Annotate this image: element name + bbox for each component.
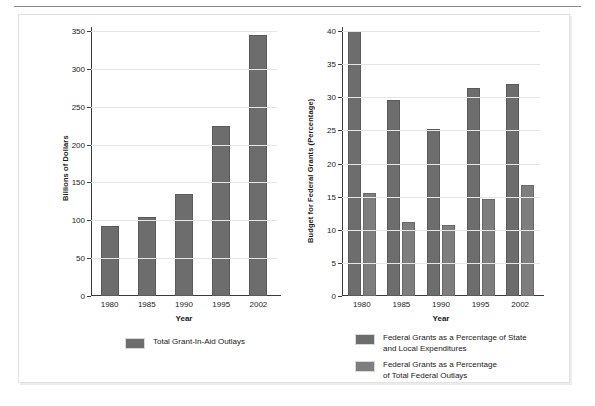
bar xyxy=(442,225,455,296)
x-tick-label: 1995 xyxy=(203,300,240,309)
legend-swatch-icon xyxy=(355,334,375,345)
y-tick-label: 300 xyxy=(72,64,85,73)
y-axis-tick xyxy=(87,69,91,70)
y-axis-tick xyxy=(338,97,342,98)
x-tick-label: 1985 xyxy=(382,300,422,309)
gridline xyxy=(91,182,277,183)
gridline xyxy=(91,220,277,221)
y-tick-label: 35 xyxy=(327,60,336,69)
gridline xyxy=(91,107,277,108)
y-axis-tick xyxy=(87,31,91,32)
y-tick-label: 350 xyxy=(72,27,85,36)
legend-swatch-icon xyxy=(125,338,145,349)
legend-label-line1: Federal Grants as a Percentage xyxy=(383,360,497,369)
y-tick-label: 0 xyxy=(332,292,336,301)
gridline xyxy=(342,230,540,231)
y-tick-label: 30 xyxy=(327,93,336,102)
y-tick-label: 150 xyxy=(72,178,85,187)
gridline xyxy=(91,31,277,32)
y-tick-label: 250 xyxy=(72,102,85,111)
x-tick-label: 1990 xyxy=(165,300,202,309)
gridline xyxy=(342,164,540,165)
legend-label-line1: Federal Grants as a Percentage of State xyxy=(383,333,527,342)
plot-area-left: 050100150200250300350 xyxy=(91,31,277,296)
gridline xyxy=(91,145,277,146)
gridline xyxy=(342,97,540,98)
bar xyxy=(427,129,440,296)
y-axis-tick xyxy=(338,64,342,65)
y-axis-tick xyxy=(338,296,342,297)
y-tick-label: 20 xyxy=(327,159,336,168)
gridline xyxy=(342,130,540,131)
x-tick-label: 2002 xyxy=(240,300,277,309)
bar xyxy=(482,199,495,296)
bar xyxy=(363,193,376,296)
x-tick-label: 1995 xyxy=(461,300,501,309)
y-axis-tick xyxy=(87,107,91,108)
legend-item: Total Grant-In-Aid Outlays xyxy=(125,337,245,349)
x-tick-labels-left: 19801985199019952002 xyxy=(91,300,277,309)
bar xyxy=(175,194,193,296)
gridline xyxy=(342,197,540,198)
plot-area-right: 0510152025303540 xyxy=(342,31,540,296)
y-tick-label: 50 xyxy=(76,254,85,263)
figure-page: Billions of Dollars 05010015020025030035… xyxy=(0,0,595,406)
y-tick-label: 10 xyxy=(327,225,336,234)
bar-group xyxy=(165,31,202,296)
x-axis-title-left: Year xyxy=(91,314,277,323)
y-axis-tick xyxy=(338,164,342,165)
legend-item: Federal Grants as a Percentage of State … xyxy=(355,333,527,354)
bar xyxy=(402,222,415,296)
chart-panel-left: Billions of Dollars 05010015020025030035… xyxy=(25,15,293,315)
bar xyxy=(387,100,400,296)
bar-group xyxy=(91,31,128,296)
bar xyxy=(138,217,156,297)
legend-label: Federal Grants as a Percentage of Total … xyxy=(383,360,497,381)
gridline xyxy=(91,69,277,70)
y-tick-label: 40 xyxy=(327,27,336,36)
bar-group-container-left xyxy=(91,31,277,296)
y-axis-tick xyxy=(338,31,342,32)
charts-row: Billions of Dollars 05010015020025030035… xyxy=(19,15,569,315)
y-axis-tick xyxy=(338,230,342,231)
y-axis-tick xyxy=(87,182,91,183)
legend-swatch-icon xyxy=(355,361,375,372)
legend-label: Federal Grants as a Percentage of State … xyxy=(383,333,527,354)
y-axis-title-left: Billions of Dollars xyxy=(61,103,70,233)
y-tick-label: 100 xyxy=(72,216,85,225)
bar xyxy=(506,84,519,296)
y-axis-tick xyxy=(87,258,91,259)
y-tick-label: 200 xyxy=(72,140,85,149)
bar xyxy=(467,88,480,296)
x-tick-labels-right: 19801985199019952002 xyxy=(342,300,540,309)
top-horizontal-rule xyxy=(14,6,581,7)
x-tick-label: 1990 xyxy=(421,300,461,309)
bar xyxy=(249,35,267,296)
legend-label: Total Grant-In-Aid Outlays xyxy=(153,337,245,348)
x-tick-label: 2002 xyxy=(500,300,540,309)
bar xyxy=(521,185,534,296)
y-axis-tick xyxy=(338,263,342,264)
bar xyxy=(212,126,230,296)
chart-panel-right: Budget for Federal Grants (Percentage) 0… xyxy=(293,15,565,315)
y-axis-tick xyxy=(87,220,91,221)
y-tick-label: 0 xyxy=(81,292,85,301)
x-tick-label: 1980 xyxy=(342,300,382,309)
y-tick-label: 25 xyxy=(327,126,336,135)
gridline xyxy=(342,263,540,264)
gridline xyxy=(342,31,540,32)
y-axis-tick xyxy=(338,197,342,198)
bar-group xyxy=(203,31,240,296)
legend-left: Total Grant-In-Aid Outlays xyxy=(125,337,245,355)
x-axis-title-right: Year xyxy=(342,314,540,323)
legend-right: Federal Grants as a Percentage of State … xyxy=(355,333,527,387)
gridline xyxy=(342,64,540,65)
bar xyxy=(101,226,119,296)
bar-group xyxy=(128,31,165,296)
y-tick-label: 5 xyxy=(332,258,336,267)
legend-label-line2: of Total Federal Outlays xyxy=(383,371,467,380)
figure-frame: Billions of Dollars 05010015020025030035… xyxy=(18,14,570,383)
y-axis-tick xyxy=(87,296,91,297)
y-tick-label: 15 xyxy=(327,192,336,201)
legend-label-line2: and Local Expenditures xyxy=(383,344,467,353)
